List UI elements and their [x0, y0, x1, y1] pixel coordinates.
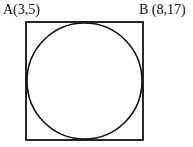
inscribed-circle-shape	[27, 23, 142, 139]
geometry-canvas	[0, 0, 193, 147]
geometry-figure: A(3,5) B (8,17)	[0, 0, 193, 147]
